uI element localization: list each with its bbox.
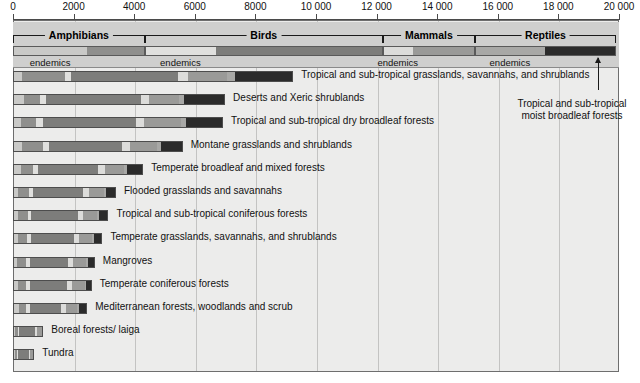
bar-segment [161, 142, 182, 151]
stacked-bar [13, 233, 102, 244]
bar-segment [144, 118, 181, 127]
bar-row: Tundra [13, 346, 619, 366]
bar-category-label: Tropical and sub-tropical dry broadleaf … [231, 115, 434, 126]
bar-segment [24, 95, 40, 104]
bar-segment [30, 281, 67, 290]
bar-category-label: Deserts and Xeric shrublands [233, 92, 364, 103]
bar-segment [72, 281, 85, 290]
bar-segment [49, 142, 122, 151]
bar-row: Mangroves [13, 254, 619, 274]
bar-category-label: Montane grasslands and shrublands [191, 139, 352, 150]
endemics-label: endemics [377, 57, 418, 68]
x-tick-mark [619, 14, 620, 20]
stacked-bar [13, 257, 95, 268]
stacked-bar [13, 303, 87, 314]
bar-segment [22, 72, 65, 81]
bar-segment [130, 142, 157, 151]
bar-row: Boreal forests/ laiga [13, 323, 619, 343]
bar-segment [18, 350, 29, 359]
bar-segment [22, 142, 43, 151]
bar-row: Temperate broadleaf and mixed forests [13, 161, 619, 181]
x-tick-label: 20 000 [604, 1, 635, 12]
x-tick-label: 10 000 [301, 1, 332, 12]
x-tick-label: 2000 [62, 1, 84, 12]
bar-row: Tropical and sub-tropical coniferous for… [13, 207, 619, 227]
bar-row: Mediterranean forests, woodlands and scr… [13, 300, 619, 320]
taxa-legend-band: AmphibiansBirdsMammalsReptiles endemicse… [13, 22, 619, 68]
bar-row: Flooded grasslands and savannahs [13, 184, 619, 204]
bar-segment [21, 165, 33, 174]
bar-segment [99, 211, 107, 220]
stacked-bar [13, 210, 108, 221]
bar-segment [14, 95, 24, 104]
bar-segment [188, 72, 227, 81]
taxon-group-label: Reptiles [521, 29, 570, 41]
stacked-bar [13, 94, 225, 105]
bar-category-label: Tundra [42, 347, 73, 358]
bar-row: Tropical and sub-tropical grasslands, sa… [13, 68, 619, 88]
bar-segment [83, 211, 97, 220]
bar-segment [33, 188, 84, 197]
bar-segment [19, 304, 26, 313]
taxon-legend-swatch [475, 46, 616, 56]
bar-category-label: Temperate broadleaf and mixed forests [151, 162, 324, 173]
bar-segment [21, 118, 36, 127]
annotation-line-1: Tropical and sub-tropical [508, 98, 636, 110]
bar-segment [98, 165, 105, 174]
bar-segment [106, 188, 115, 197]
annotation-line-2: moist broadleaf forests [508, 110, 636, 122]
bar-segment [227, 72, 235, 81]
bar-segment [105, 165, 124, 174]
x-tick-label: 4000 [123, 1, 145, 12]
bar-segment [18, 211, 28, 220]
bar-segment [186, 118, 222, 127]
legend-total-swatch [413, 47, 474, 55]
bar-segment [73, 258, 86, 267]
taxon-group-label: Birds [246, 29, 281, 41]
bar-category-label: Flooded grasslands and savannahs [124, 185, 282, 196]
bar-segment [14, 142, 22, 151]
taxon-group-label: Amphibians [45, 29, 113, 41]
legend-total-swatch [545, 47, 615, 55]
endemics-label: endemics [490, 57, 531, 68]
bar-row: Temperate coniferous forests [13, 277, 619, 297]
bar-category-label: Mangroves [103, 255, 152, 266]
legend-endemics-swatch [146, 47, 217, 55]
bar-segment [127, 165, 142, 174]
bar-category-label: Temperate grasslands, savannahs, and shr… [110, 231, 336, 242]
bar-segment [136, 118, 144, 127]
bar-segment [30, 304, 62, 313]
bar-category-label: Temperate coniferous forests [100, 278, 229, 289]
x-tick-label: 18 000 [543, 1, 574, 12]
taxon-legend-swatch [383, 46, 475, 56]
bar-segment [79, 234, 92, 243]
stacked-bar [13, 117, 223, 128]
bar-row: Temperate grasslands, savannahs, and shr… [13, 230, 619, 250]
bar-segment [17, 258, 26, 267]
annotation-arrow [598, 58, 599, 90]
x-tick-label: 8000 [244, 1, 266, 12]
stacked-bar [13, 71, 293, 82]
bar-segment [18, 281, 26, 290]
bar-segment [122, 142, 130, 151]
bar-category-label: Boreal forests/ laiga [51, 324, 139, 335]
stacked-bar [13, 326, 43, 337]
bar-segment [71, 72, 178, 81]
bar-segment [43, 118, 136, 127]
x-tick-label: 0 [10, 1, 16, 12]
legend-endemics-swatch [14, 47, 87, 55]
annotation-label: Tropical and sub-tropical moist broadlea… [508, 98, 636, 122]
x-tick-label: 6000 [184, 1, 206, 12]
stacked-bar [13, 141, 183, 152]
stacked-bar [13, 349, 34, 360]
bar-segment [18, 188, 29, 197]
taxon-legend-swatch [13, 46, 145, 56]
bar-segment [14, 165, 21, 174]
legend-total-swatch [87, 47, 144, 55]
bar-category-label: Tropical and sub-tropical coniferous for… [116, 208, 307, 219]
bar-row: Montane grasslands and shrublands [13, 138, 619, 158]
bar-category-label: Tropical and sub-tropical grasslands, sa… [301, 69, 589, 80]
taxon-legend-swatch [145, 46, 383, 56]
bar-segment [14, 72, 22, 81]
endemics-label: endemics [160, 57, 201, 68]
